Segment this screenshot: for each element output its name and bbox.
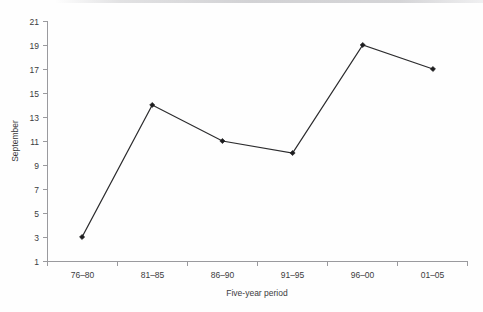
y-tick-label: 13 bbox=[30, 113, 40, 123]
y-axis-title: September bbox=[10, 120, 20, 162]
y-tick-label: 17 bbox=[30, 65, 40, 75]
y-tick-label: 9 bbox=[34, 161, 39, 171]
y-axis-tick-labels: 21 19 17 15 13 11 9 7 5 3 1 bbox=[30, 17, 40, 267]
x-tick-label: 96–00 bbox=[351, 270, 375, 280]
x-tick-label: 01–05 bbox=[421, 270, 445, 280]
series-line-september bbox=[82, 45, 433, 237]
chart-figure: 21 19 17 15 13 11 9 7 5 3 1 September 76… bbox=[0, 0, 483, 312]
y-tick-label: 15 bbox=[30, 89, 40, 99]
y-tick-label: 21 bbox=[30, 17, 40, 27]
data-point bbox=[79, 234, 84, 239]
x-tick-label: 86–90 bbox=[211, 270, 235, 280]
data-point bbox=[220, 138, 225, 143]
x-tick-label: 91–95 bbox=[281, 270, 305, 280]
x-tick-label: 81–85 bbox=[141, 270, 165, 280]
x-axis-tick-labels: 76–80 81–85 86–90 91–95 96–00 01–05 bbox=[71, 270, 445, 280]
y-tick-label: 1 bbox=[34, 257, 39, 267]
line-chart: 21 19 17 15 13 11 9 7 5 3 1 September 76… bbox=[0, 0, 483, 312]
y-axis-ticks bbox=[43, 22, 47, 262]
data-point bbox=[430, 66, 435, 71]
y-tick-label: 5 bbox=[34, 209, 39, 219]
x-tick-label: 76–80 bbox=[71, 270, 95, 280]
x-axis-title: Five-year period bbox=[226, 288, 288, 298]
y-tick-label: 19 bbox=[30, 41, 40, 51]
y-tick-label: 7 bbox=[34, 185, 39, 195]
y-tick-label: 11 bbox=[30, 137, 39, 147]
data-point bbox=[150, 102, 155, 107]
y-tick-label: 3 bbox=[34, 233, 39, 243]
